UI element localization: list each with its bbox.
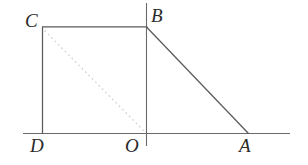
segment-ba (147, 27, 249, 134)
segment-co-dotted (45, 31, 145, 132)
vertex-label-d: D (30, 136, 44, 155)
vertex-label-o: O (125, 136, 139, 155)
vertex-label-c: C (25, 11, 38, 30)
vertex-label-a: A (239, 136, 251, 155)
vertex-label-b: B (151, 6, 163, 25)
geometry-figure: C B D O A (0, 0, 308, 165)
